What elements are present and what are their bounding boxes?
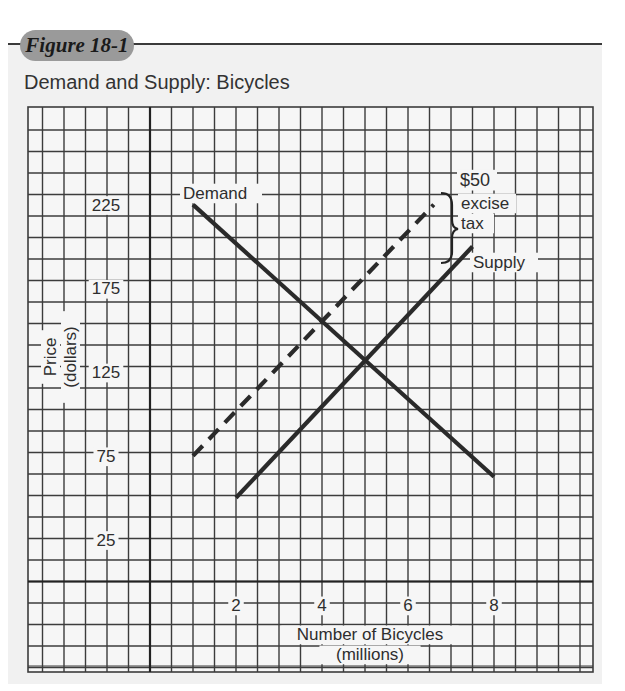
x-tick-label: 8 [489,596,498,615]
grid-frame [28,107,593,672]
x-axis-label: Number of Bicycles [297,625,443,644]
supply-label: Supply [473,253,525,272]
grid [28,107,593,672]
y-tick-label: 175 [92,279,120,298]
x-tick-label: 4 [317,596,326,615]
label-text: (dollars) [61,326,80,387]
y-axis-label: Price [41,330,60,384]
y-tick-label: 125 [92,363,120,382]
tax-label-excise: excise [461,194,509,213]
y-tick-label: 25 [97,531,116,550]
x-tick-label: 6 [403,596,412,615]
tax-label-tax: tax [461,214,484,233]
x-tick-label: 2 [231,596,240,615]
y-tick-label: 225 [92,196,120,215]
y-axis-label-units: (dollars) [61,311,80,403]
x-axis-label-units: (millions) [336,645,404,664]
chart-canvas: 25751251752252468Number of Bicycles(mill… [0,0,625,691]
tax-label-amount: $50 [460,170,490,190]
demand-label: Demand [183,184,247,203]
y-tick-label: 75 [97,447,116,466]
label-text: Price [41,338,60,377]
